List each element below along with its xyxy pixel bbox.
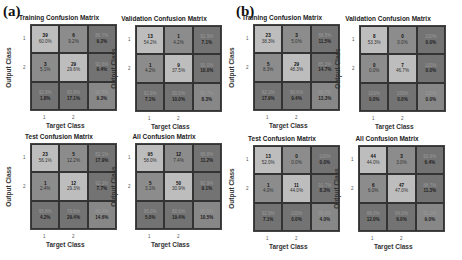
cell-error: 1.8%: [40, 96, 50, 102]
matrix-cell: 88.0%12.0%: [359, 203, 387, 231]
cell-error: 10.5%: [200, 215, 213, 221]
matrix-cell: 1144.0%: [282, 174, 310, 202]
matrix-cell: 90.0%10.0%: [164, 83, 192, 111]
matrix-cell: 53.1%: [136, 172, 164, 200]
y-tick: 2: [351, 186, 354, 191]
matrix-cell: 12.4%: [31, 172, 59, 200]
cell-percent: 0.0%: [369, 68, 379, 74]
cell-error: 8.3%: [202, 97, 212, 103]
cell-percent: 46.7%: [396, 68, 409, 74]
x-tick: 1: [43, 115, 46, 120]
cell-percent: 29.3%: [67, 186, 80, 192]
cell-percent: 38.3%: [262, 39, 275, 45]
matrix-cell: 1354.2%: [136, 26, 164, 54]
confusion-matrix: Training Confusion MatrixOutput Class122…: [224, 14, 340, 134]
matrix-cell: 100%0.0%: [417, 26, 445, 54]
matrix-cell: 92.9%7.1%: [254, 203, 282, 231]
cell-percent: 48.3%: [290, 67, 303, 73]
y-axis-label: Output Class: [332, 25, 342, 112]
matrix-title: Validation Confusion Matrix: [330, 15, 446, 22]
matrix-cell: 100%0.0%: [388, 83, 416, 111]
matrix-cell: 58.3%: [254, 53, 282, 81]
matrix-cell: 9558.0%: [136, 144, 164, 172]
x-axis-label: Target Class: [253, 243, 340, 250]
matrix-grid: 9558.0%127.4%88.8%11.2%53.1%5030.9%90.9%…: [135, 143, 222, 230]
matrix-cell: 91.7%8.3%: [193, 83, 221, 111]
cell-error: 17.1%: [67, 96, 80, 102]
y-axis-label: Output Class: [226, 24, 236, 111]
cell-percent: 53.3%: [368, 40, 381, 46]
cell-percent: 30.9%: [172, 186, 185, 192]
cell-percent: 0.0%: [397, 40, 407, 46]
cell-error: 9.4%: [291, 96, 301, 102]
matrix-cell: 82.1%17.9%: [254, 82, 282, 110]
matrix-cell: 69.2%: [59, 25, 87, 53]
cell-percent: 12.2%: [67, 158, 80, 164]
cell-error: 5.0%: [145, 215, 155, 221]
x-tick: 2: [295, 236, 298, 241]
matrix-title: Validation Confusion Matrix: [106, 15, 222, 22]
matrix-title: Test Confusion Matrix: [224, 135, 340, 142]
matrix-cell: 14.2%: [136, 54, 164, 82]
y-axis-label: Output Class: [108, 143, 118, 230]
cell-percent: 44.0%: [367, 160, 380, 166]
y-tick: 2: [128, 66, 131, 71]
y-tick: 1: [128, 155, 131, 160]
cell-percent: 5.0%: [291, 39, 301, 45]
matrix-cell: 66.0%: [359, 174, 387, 202]
x-tick: 2: [72, 234, 75, 239]
y-tick: 1: [246, 36, 249, 41]
matrix-cell: 746.7%: [388, 54, 416, 82]
x-axis-label: Target Class: [30, 122, 117, 129]
cell-percent: 54.2%: [144, 40, 157, 46]
cell-error: 10.0%: [200, 68, 213, 74]
matrix-cell: 127.4%: [164, 144, 192, 172]
matrix-grid: 4444.0%33.0%93.6%6.4%66.0%4747.0%88.7%11…: [358, 145, 445, 232]
y-tick: 1: [23, 36, 26, 41]
x-tick: 1: [148, 116, 151, 121]
cell-percent: 47.0%: [395, 188, 408, 194]
x-axis-label: Target Class: [135, 123, 222, 130]
cell-error: 17.9%: [262, 96, 275, 102]
y-axis-label: Output Class: [331, 145, 341, 232]
x-axis-label: Target Class: [135, 241, 222, 248]
matrix-cell: 100%0.0%: [360, 83, 388, 111]
matrix-cell: 5030.9%: [164, 172, 192, 200]
cell-error: 7.1%: [202, 40, 212, 46]
y-axis-label: Output Class: [226, 145, 236, 232]
matrix-title: Training Confusion Matrix: [224, 14, 340, 21]
y-tick: 1: [128, 37, 131, 42]
cell-error: 6.4%: [425, 160, 435, 166]
cell-error: 6.0%: [396, 217, 406, 223]
y-axis-label: Output Class: [3, 24, 13, 111]
matrix-cell: 70.6%29.4%: [59, 201, 87, 229]
matrix-cell: 95.8%4.2%: [31, 201, 59, 229]
cell-error: 29.4%: [67, 215, 80, 221]
cell-error: 0.0%: [369, 97, 379, 103]
matrix-grid: 853.3%00.0%100%0.0%00.0%746.7%100%0.0%10…: [359, 25, 446, 112]
matrix-cell: 80.6%19.4%: [164, 201, 192, 229]
cell-percent: 2.4%: [40, 186, 50, 192]
cell-error: 7.1%: [145, 97, 155, 103]
confusion-matrix: Test Confusion MatrixOutput Class121352.…: [224, 135, 340, 255]
x-tick: 2: [177, 116, 180, 121]
matrix-grid: 3960.0%69.2%86.7%9.2%35.1%2929.6%90.6%9.…: [30, 24, 117, 111]
cell-error: 0.0%: [426, 68, 436, 74]
x-axis-label: Target Class: [359, 123, 446, 130]
x-tick: 2: [401, 116, 404, 121]
y-tick: 2: [128, 184, 131, 189]
matrix-cell: 100%0.0%: [417, 54, 445, 82]
matrix-cell: 4444.0%: [359, 146, 387, 174]
matrix-cell: 95.0%5.0%: [136, 201, 164, 229]
x-tick: 2: [400, 236, 403, 241]
y-tick: 2: [246, 186, 249, 191]
matrix-cell: 82.9%17.1%: [59, 82, 87, 110]
x-tick: 2: [295, 115, 298, 120]
matrix-cell: 92.9%7.1%: [193, 26, 221, 54]
x-tick: 1: [266, 115, 269, 120]
matrix-cell: 14.2%: [164, 26, 192, 54]
confusion-matrix: Validation Confusion MatrixOutput Class1…: [106, 15, 222, 135]
cell-percent: 56.1%: [39, 158, 52, 164]
cell-error: 7.1%: [263, 217, 273, 223]
matrix-cell: 100%0.0%: [417, 83, 445, 111]
